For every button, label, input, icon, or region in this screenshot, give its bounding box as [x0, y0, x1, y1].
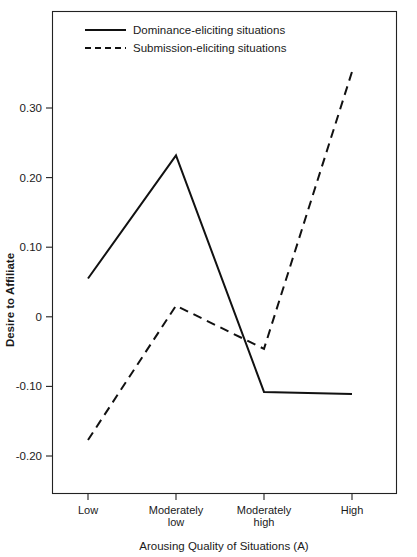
- legend-label-submission: Submission-eliciting situations: [133, 42, 287, 54]
- y-tick-label-2: 0.10: [20, 241, 42, 253]
- y-axis-title: Desire to Affiliate: [4, 253, 16, 347]
- chart-figure: 0.30 0.20 0.10 0 -0.10 -0.20 Desire to A…: [0, 0, 417, 557]
- x-tick-label-low-line1: Low: [78, 504, 98, 516]
- chart-legend: Dominance-eliciting situations Submissio…: [85, 24, 287, 54]
- y-tick-label-4: -0.10: [16, 380, 42, 392]
- x-tick-label-moderately-low-line1: Moderately: [149, 504, 204, 516]
- line-chart: 0.30 0.20 0.10 0 -0.10 -0.20 Desire to A…: [0, 0, 417, 557]
- y-tick-label-0: 0.30: [20, 102, 42, 114]
- y-axis-tick-labels: 0.30 0.20 0.10 0 -0.10 -0.20: [16, 102, 42, 462]
- x-axis-title: Arousing Quality of Situations (A): [139, 540, 309, 552]
- y-tick-label-3: 0: [36, 311, 42, 323]
- x-axis-ticks: [88, 494, 352, 501]
- x-tick-label-moderately-high-line2: high: [254, 516, 275, 528]
- series-line-dominance: [88, 155, 352, 394]
- y-tick-label-1: 0.20: [20, 172, 42, 184]
- x-tick-label-moderately-high-line1: Moderately: [237, 504, 292, 516]
- y-axis-ticks: [46, 108, 53, 456]
- x-tick-label-high-line1: High: [341, 504, 364, 516]
- x-tick-label-moderately-low-line2: low: [168, 516, 185, 528]
- series-line-submission: [88, 72, 352, 440]
- plot-frame: [53, 12, 397, 494]
- y-tick-label-5: -0.20: [16, 450, 42, 462]
- x-axis-tick-labels: Low Moderately low Moderately high High: [78, 504, 363, 528]
- legend-label-dominance: Dominance-eliciting situations: [133, 24, 285, 36]
